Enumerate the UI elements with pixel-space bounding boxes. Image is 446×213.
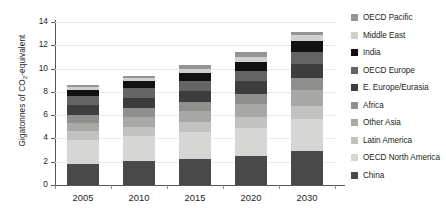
legend-item-label: Latin America <box>363 136 412 145</box>
x-tick-mark <box>167 185 168 189</box>
x-tick-label-2005: 2005 <box>63 192 103 203</box>
bar-segment-e-europe-eurasia <box>291 64 323 78</box>
bar-segment-africa <box>179 102 211 111</box>
bar-segment-oecd-pacific <box>291 32 323 35</box>
y-axis-title-subscript: 2 <box>20 76 27 80</box>
y-tick-label: 14 <box>22 16 48 26</box>
bar-segment-oecd-europe <box>235 71 267 81</box>
bar-segment-latin-america <box>67 131 99 140</box>
x-tick-label-2030: 2030 <box>287 192 327 203</box>
legend-item-label: OECD Pacific <box>363 13 412 22</box>
bar-segment-africa <box>235 94 267 104</box>
bar-2020 <box>235 22 267 185</box>
bar-2015 <box>179 22 211 185</box>
bar-segment-oecd-north-america <box>67 140 99 164</box>
bar-segment-other-asia <box>179 111 211 122</box>
plot-area <box>55 22 335 185</box>
bar-segment-oecd-europe <box>291 52 323 64</box>
bar-segment-oecd-pacific <box>179 65 211 69</box>
bar-segment-middle-east <box>123 78 155 81</box>
bar-2030 <box>291 22 323 185</box>
bar-segment-e-europe-eurasia <box>123 98 155 108</box>
bar-segment-middle-east <box>67 87 99 90</box>
y-tick-label: 4 <box>22 132 48 142</box>
legend-item-label: Other Asia <box>363 118 401 127</box>
bar-segment-middle-east <box>291 35 323 40</box>
legend-item-china[interactable]: China <box>351 167 446 185</box>
legend-swatch-icon <box>351 119 358 126</box>
bar-segment-middle-east <box>235 57 267 61</box>
bar-segment-africa <box>291 78 323 90</box>
legend-item-africa[interactable]: Africa <box>351 97 446 115</box>
y-tick-label: 2 <box>22 156 48 166</box>
x-tick-mark <box>279 185 280 189</box>
bar-segment-india <box>123 81 155 88</box>
legend-swatch-icon <box>351 14 358 21</box>
bar-segment-oecd-north-america <box>179 132 211 159</box>
bar-segment-other-asia <box>67 123 99 132</box>
bar-segment-china <box>291 151 323 185</box>
x-tick-label-2020: 2020 <box>231 192 271 203</box>
bar-segment-latin-america <box>235 117 267 128</box>
y-tick-label: 12 <box>22 39 48 49</box>
y-tick-label: 10 <box>22 63 48 73</box>
bar-segment-latin-america <box>123 127 155 136</box>
legend-swatch-icon <box>351 67 358 74</box>
legend-item-label: E. Europe/Eurasia <box>363 83 429 92</box>
legend-item-india[interactable]: India <box>351 44 446 62</box>
legend-item-middle-east[interactable]: Middle East <box>351 27 446 45</box>
bar-segment-oecd-europe <box>179 81 211 91</box>
bar-segment-india <box>179 73 211 81</box>
legend-item-oecd-europe[interactable]: OECD Europe <box>351 62 446 80</box>
y-tick-label: 6 <box>22 109 48 119</box>
legend-item-label: OECD North America <box>363 153 440 162</box>
bar-segment-e-europe-eurasia <box>179 91 211 102</box>
bar-segment-oecd-north-america <box>291 119 323 151</box>
legend-item-latin-america[interactable]: Latin America <box>351 132 446 150</box>
bar-segment-africa <box>67 115 99 123</box>
bar-segment-china <box>235 156 267 185</box>
bar-segment-oecd-europe <box>123 88 155 97</box>
x-tick-label-2015: 2015 <box>175 192 215 203</box>
x-tick-label-2010: 2010 <box>119 192 159 203</box>
legend-item-label: Africa <box>363 101 384 110</box>
legend-swatch-icon <box>351 137 358 144</box>
bar-segment-india <box>235 62 267 71</box>
bar-segment-latin-america <box>179 122 211 132</box>
bar-segment-oecd-north-america <box>235 128 267 157</box>
x-tick-mark <box>335 185 336 189</box>
bar-segment-oecd-europe <box>67 96 99 105</box>
legend-swatch-icon <box>351 102 358 109</box>
x-tick-mark <box>55 185 56 189</box>
emissions-stacked-bar-chart: Gigatonnes of CO2-equivalent 02468101214… <box>0 0 446 213</box>
y-tick-label: 8 <box>22 86 48 96</box>
chart-title-cropped <box>60 0 280 5</box>
legend-item-oecd-pacific[interactable]: OECD Pacific <box>351 9 446 27</box>
x-axis-line <box>55 185 345 186</box>
bar-segment-africa <box>123 108 155 117</box>
bar-segment-china <box>179 159 211 185</box>
bar-segment-oecd-north-america <box>123 136 155 161</box>
legend-item-label: India <box>363 48 381 57</box>
legend-item-e-europe-eurasia[interactable]: E. Europe/Eurasia <box>351 79 446 97</box>
legend-swatch-icon <box>351 84 358 91</box>
bar-segment-oecd-pacific <box>67 85 99 87</box>
bar-segment-oecd-pacific <box>235 52 267 57</box>
bar-segment-other-asia <box>291 90 323 106</box>
bar-segment-china <box>67 164 99 185</box>
legend-item-label: OECD Europe <box>363 66 415 75</box>
legend-swatch-icon <box>351 32 358 39</box>
bar-segment-latin-america <box>291 106 323 119</box>
chart-legend: OECD PacificMiddle EastIndiaOECD EuropeE… <box>351 9 446 184</box>
legend-swatch-icon <box>351 154 358 161</box>
legend-item-label: Middle East <box>363 31 405 40</box>
x-tick-mark <box>223 185 224 189</box>
x-tick-mark <box>111 185 112 189</box>
bar-segment-india <box>291 41 323 53</box>
bar-segment-oecd-pacific <box>123 76 155 79</box>
y-tick-label: 0 <box>22 179 48 189</box>
bar-segment-other-asia <box>123 117 155 127</box>
legend-item-oecd-north-america[interactable]: OECD North America <box>351 149 446 167</box>
legend-item-other-asia[interactable]: Other Asia <box>351 114 446 132</box>
bar-segment-other-asia <box>235 104 267 117</box>
